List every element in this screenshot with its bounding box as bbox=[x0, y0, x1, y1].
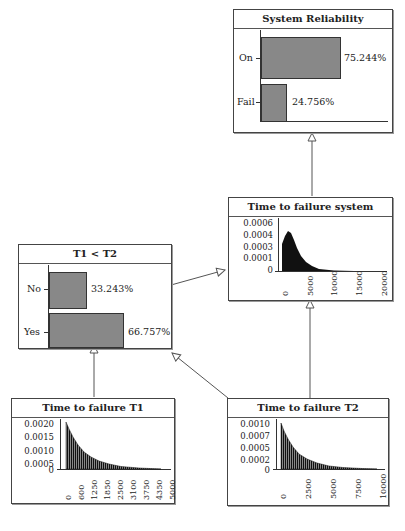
state-bar-no bbox=[49, 272, 87, 309]
edge-ttf-t2-to-t1-lt-t2 bbox=[172, 353, 228, 398]
node-title: Time to failure T1 bbox=[12, 399, 174, 418]
density-plot bbox=[277, 419, 387, 470]
node-t1-lt-t2[interactable]: T1 < T2 No 33.243% Yes 66.757% bbox=[18, 244, 172, 349]
node-ttf-t1[interactable]: Time to failure T1 0.0020 0.0015 0.0010 … bbox=[11, 398, 175, 504]
state-bar-on bbox=[261, 37, 341, 79]
state-value-fail: 24.756% bbox=[292, 96, 334, 107]
node-ttf-t2[interactable]: Time to failure T2 0.0010 0.0007 0.0005 … bbox=[227, 398, 389, 506]
state-value-yes: 66.757% bbox=[128, 326, 170, 337]
node-title: Time to failure T2 bbox=[228, 399, 388, 418]
density-plot bbox=[279, 218, 389, 272]
state-bar-fail bbox=[261, 84, 287, 122]
node-ttf-system[interactable]: Time to failure system 0.0006 0.0004 0.0… bbox=[228, 197, 393, 301]
node-title: System Reliability bbox=[234, 10, 392, 29]
density-plot bbox=[61, 419, 171, 470]
state-value-on: 75.244% bbox=[344, 52, 386, 63]
node-title: T1 < T2 bbox=[19, 245, 171, 264]
state-label-on: On bbox=[239, 52, 253, 63]
state-value-no: 33.243% bbox=[91, 283, 133, 294]
node-title: Time to failure system bbox=[229, 198, 392, 217]
state-label-fail: Fail bbox=[237, 96, 255, 107]
edge-t1-lt-t2-to-ttf-system bbox=[171, 270, 225, 285]
state-label-yes: Yes bbox=[24, 326, 40, 337]
state-bar-yes bbox=[49, 313, 124, 348]
state-label-no: No bbox=[27, 283, 41, 294]
node-system-reliability[interactable]: System Reliability On 75.244% Fail 24.75… bbox=[233, 9, 393, 133]
